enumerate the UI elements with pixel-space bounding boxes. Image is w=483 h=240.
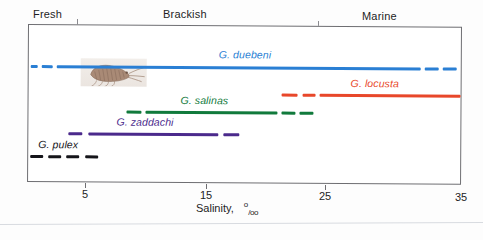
x-tick-label-5: 5 [70, 188, 100, 200]
permille-sub: /oo [248, 208, 258, 217]
range-segment-pulex-dash [30, 155, 43, 158]
amphipod-icon [81, 58, 147, 86]
range-segment-locusta-dash [282, 94, 298, 97]
series-label-pulex: G. pulex [38, 138, 78, 150]
range-segment-locusta-dash [303, 94, 316, 97]
x-axis-title: Salinity, o/oo [196, 200, 258, 217]
range-segment-duebeni-dash [42, 65, 53, 68]
series-label-duebeni: G. duebeni [219, 48, 271, 60]
page-edge-line [0, 222, 483, 225]
range-segment-duebeni-dash [425, 67, 439, 70]
range-segment-salinas-dash [281, 112, 295, 115]
range-segment-salinas-dash [126, 111, 141, 114]
range-segment-pulex-dash [85, 155, 98, 158]
range-segment-pulex-dash [66, 155, 79, 158]
plot-frame: G. duebeni G. locusta G. salinas G. zadd… [27, 24, 462, 185]
x-axis-title-text: Salinity, [196, 202, 234, 214]
range-segment-duebeni-dash [31, 65, 38, 68]
series-label-locusta: G. locusta [351, 77, 399, 89]
series-label-zaddachi: G. zaddachi [116, 116, 173, 128]
x-tick-label-35: 35 [446, 191, 476, 203]
salinity-species-range-chart: Fresh Brackish Marine G. duebeni [0, 0, 483, 240]
zone-label-marine: Marine [362, 10, 397, 22]
range-segment-zaddachi-dash [68, 132, 82, 135]
range-segment-pulex-dash [48, 155, 61, 158]
zone-label-fresh: Fresh [33, 8, 62, 20]
range-segment-salinas-solid [145, 111, 277, 115]
range-segment-zaddachi-dash [223, 133, 239, 136]
range-segment-zaddachi-solid [88, 132, 218, 136]
permille-symbol: o/oo [244, 200, 258, 217]
page-margin [0, 228, 483, 240]
range-segment-locusta-solid [320, 94, 461, 98]
range-segment-salinas-dash [299, 112, 313, 115]
zone-label-brackish: Brackish [163, 8, 207, 20]
series-label-salinas: G. salinas [181, 94, 229, 106]
gammarus-specimen-photo [81, 58, 147, 86]
range-segment-duebeni-dash [443, 68, 457, 71]
x-tick-label-25: 25 [310, 190, 340, 202]
